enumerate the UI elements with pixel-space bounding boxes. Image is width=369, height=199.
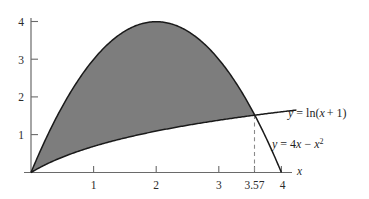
y-tick-label-4: 4 [18,16,24,28]
figure-plot-area: 4 3 2 1 1 2 3 3.57 4 x y= ln(x+ 1) y= 4x… [0,0,369,199]
log-label-y: y [287,106,294,120]
y-tick-label-2: 2 [18,91,24,103]
parabola-label-y: y [271,137,278,151]
parabola-label-minus: − [304,137,311,151]
x-tick-label-3: 3 [216,179,222,191]
log-label-eq: = ln( [296,106,319,120]
x-tick-label-4: 4 [280,179,286,191]
x-tick-label-1: 1 [91,179,97,191]
parabola-label-eq: = 4 [280,137,296,151]
plot-svg: 4 3 2 1 1 2 3 3.57 4 x y= ln(x+ 1) y= 4x… [0,0,369,199]
x-tick-label-357: 3.57 [244,179,264,191]
parabola-label-var1: x [295,137,302,151]
x-axis-label: x [296,165,303,177]
y-tick-label-1: 1 [18,129,24,141]
x-tick-label-2: 2 [153,179,159,191]
shaded-region [31,22,254,173]
parabola-curve-label: y= 4x−x2 [271,137,324,151]
log-label-var: x [318,106,325,120]
log-curve-label: y= ln(x+ 1) [287,106,347,120]
y-tick-marks [31,22,38,135]
parabola-label-exponent: 2 [320,137,324,146]
y-tick-label-3: 3 [18,54,24,66]
x-tick-marks [94,166,282,173]
log-label-tail: + 1) [327,106,347,120]
